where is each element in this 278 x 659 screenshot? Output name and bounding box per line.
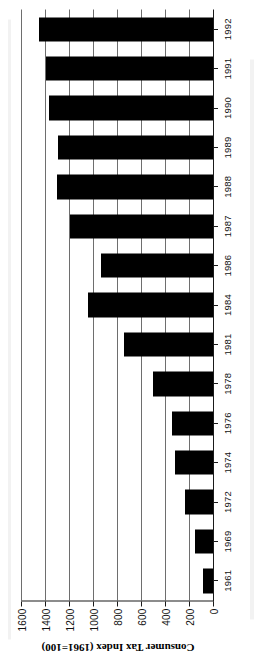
- x-axis-tick: [213, 540, 218, 541]
- bar-group: 1986: [21, 245, 213, 284]
- y-axis-tick-label: 0: [209, 608, 220, 614]
- x-axis-tick-label: 1987: [222, 215, 233, 237]
- x-axis-tick-label: 1961: [222, 569, 233, 591]
- bar-group: 1969: [21, 521, 213, 560]
- x-axis-tick-label: 1984: [222, 294, 233, 316]
- bar-group: 1991: [21, 48, 213, 87]
- x-axis-tick-label: 1969: [222, 530, 233, 552]
- x-axis-tick-label: 1981: [222, 333, 233, 355]
- x-axis-tick-label: 1986: [222, 254, 233, 276]
- bar-group: 1984: [21, 285, 213, 324]
- x-axis-tick: [213, 186, 218, 187]
- bar-group: 1978: [21, 364, 213, 403]
- x-axis-tick-label: 1974: [222, 451, 233, 473]
- x-axis-tick: [213, 146, 218, 147]
- y-axis-tick: [69, 601, 70, 606]
- bar: [101, 253, 213, 277]
- x-axis-tick: [213, 225, 218, 226]
- rotated-figure-container: Consumer Tax Index (1961=100) 0200400600…: [0, 0, 278, 659]
- x-axis-tick: [213, 580, 218, 581]
- bar: [46, 56, 213, 80]
- y-axis-tick-label: 1400: [41, 608, 52, 631]
- bar: [49, 95, 213, 119]
- y-axis-tick: [141, 601, 142, 606]
- x-axis-tick-label: 1992: [222, 18, 233, 40]
- y-axis-tick-label: 1000: [89, 608, 100, 631]
- bar-chart: Consumer Tax Index (1961=100) 0200400600…: [0, 0, 278, 659]
- y-axis-title: Consumer Tax Index (1961=100): [41, 641, 194, 653]
- bar: [124, 332, 213, 356]
- bar-group: 1981: [21, 324, 213, 363]
- y-axis-tick: [213, 601, 214, 606]
- y-axis-tick-label: 200: [185, 608, 196, 625]
- bar: [153, 371, 213, 395]
- x-axis-tick: [213, 422, 218, 423]
- bar-group: 1989: [21, 127, 213, 166]
- x-axis-tick-label: 1989: [222, 136, 233, 158]
- y-axis-tick-label: 1600: [17, 608, 28, 631]
- bar: [88, 292, 213, 316]
- x-axis-tick: [213, 462, 218, 463]
- x-axis-tick: [213, 304, 218, 305]
- y-axis-tick-label: 400: [161, 608, 172, 625]
- y-axis-tick: [189, 601, 190, 606]
- bar: [172, 411, 213, 435]
- bar: [203, 568, 213, 592]
- bar: [57, 174, 213, 198]
- x-axis-tick-label: 1972: [222, 491, 233, 513]
- bar-group: 1961: [21, 561, 213, 600]
- x-axis-tick-label: 1988: [222, 175, 233, 197]
- y-axis-tick-label: 800: [113, 608, 124, 625]
- bar: [175, 450, 213, 474]
- bar-group: 1974: [21, 442, 213, 481]
- x-axis-tick: [213, 28, 218, 29]
- x-axis-tick-label: 1990: [222, 97, 233, 119]
- bar: [39, 17, 213, 41]
- bar-group: 1976: [21, 403, 213, 442]
- x-axis-tick-label: 1976: [222, 412, 233, 434]
- bar-group: 1992: [21, 9, 213, 48]
- x-axis-tick: [213, 501, 218, 502]
- bar: [70, 214, 213, 238]
- x-axis-tick: [213, 265, 218, 266]
- bar-group: 1988: [21, 167, 213, 206]
- y-axis-tick: [117, 601, 118, 606]
- x-axis-tick: [213, 343, 218, 344]
- bar: [195, 529, 213, 553]
- bar: [185, 489, 213, 513]
- bars-group: 1961196919721974197619781981198419861987…: [21, 9, 213, 600]
- y-axis-tick: [93, 601, 94, 606]
- x-axis-tick-label: 1978: [222, 372, 233, 394]
- x-axis-tick: [213, 68, 218, 69]
- y-axis-tick: [21, 601, 22, 606]
- y-axis-tick-label: 600: [137, 608, 148, 625]
- y-axis-tick: [165, 601, 166, 606]
- y-axis-tick-label: 1200: [65, 608, 76, 631]
- x-axis-tick: [213, 383, 218, 384]
- bar-group: 1990: [21, 88, 213, 127]
- bar: [58, 135, 213, 159]
- y-axis-tick: [45, 601, 46, 606]
- bar-group: 1972: [21, 482, 213, 521]
- x-axis-tick: [213, 107, 218, 108]
- plot-area: Consumer Tax Index (1961=100) 0200400600…: [22, 9, 214, 601]
- x-axis-tick-label: 1991: [222, 57, 233, 79]
- bar-group: 1987: [21, 206, 213, 245]
